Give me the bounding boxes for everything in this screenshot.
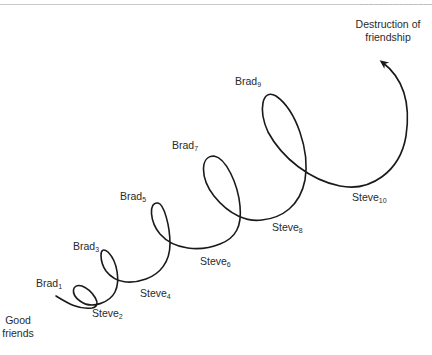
escalation-spiral bbox=[0, 0, 432, 355]
node-label-brad-7: Brad7 bbox=[172, 140, 198, 152]
end-label-line2: friendship bbox=[340, 31, 432, 44]
node-label-steve-4: Steve4 bbox=[140, 288, 171, 300]
start-label: Good friends bbox=[0, 314, 36, 340]
start-label-line2: friends bbox=[0, 327, 36, 340]
node-label-steve-10: Steve10 bbox=[352, 192, 387, 204]
end-label-line1: Destruction of bbox=[340, 18, 432, 31]
node-label-brad-9: Brad9 bbox=[235, 76, 261, 88]
end-label: Destruction of friendship bbox=[340, 18, 432, 44]
node-label-brad-3: Brad3 bbox=[73, 241, 99, 253]
node-label-steve-8: Steve8 bbox=[272, 222, 303, 234]
spiral-path bbox=[56, 62, 407, 308]
node-label-steve-2: Steve2 bbox=[92, 308, 123, 320]
node-label-brad-1: Brad1 bbox=[36, 278, 62, 290]
start-label-line1: Good bbox=[0, 314, 36, 327]
node-label-steve-6: Steve6 bbox=[200, 256, 231, 268]
node-label-brad-5: Brad5 bbox=[120, 191, 146, 203]
